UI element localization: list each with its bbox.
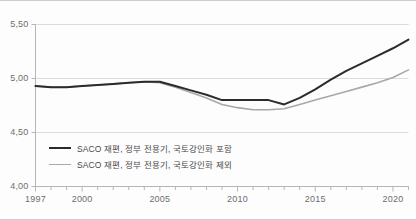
legend-swatch-excluded [49, 164, 71, 165]
legend-entry-excluded: SACO 재편, 정부 전용기, 국토강인화 제외 [49, 158, 232, 170]
y-axis-label-2: 5,00 [0, 73, 29, 83]
legend-label-excluded: SACO 재편, 정부 전용기, 국토강인화 제외 [77, 158, 232, 170]
x-axis-label-1997: 1997 [16, 194, 56, 204]
x-axis-label-2000: 2000 [62, 194, 102, 204]
chart-figure: 4,004,505,005,50 19972000200520102015202… [0, 0, 416, 220]
y-axis-label-0: 4,00 [0, 181, 29, 191]
line-chart-canvas [0, 1, 416, 220]
legend-label-included: SACO 재편, 정부 전용기, 국토강인화 포함 [77, 142, 232, 154]
legend-swatch-included [49, 147, 71, 149]
legend-entry-included: SACO 재편, 정부 전용기, 국토강인화 포함 [49, 142, 232, 154]
y-axis-label-1: 4,50 [0, 127, 29, 137]
x-axis-label-2010: 2010 [218, 194, 258, 204]
x-axis-label-2005: 2005 [140, 194, 180, 204]
x-axis-label-2015: 2015 [295, 194, 335, 204]
y-axis-label-3: 5,50 [0, 19, 29, 29]
x-axis-label-2020: 2020 [373, 194, 413, 204]
